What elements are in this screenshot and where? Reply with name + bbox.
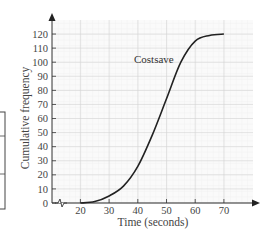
y-axis-title: Cumulative frequency [19, 67, 32, 170]
y-tick-label: 120 [32, 29, 48, 40]
cumulative-frequency-chart: 0102030405060708090100110120 20304050607… [0, 0, 269, 243]
x-tick-label: 70 [219, 205, 230, 216]
y-tick-label: 110 [33, 43, 48, 54]
y-tick-label: 60 [38, 113, 49, 124]
x-tick-label: 60 [190, 205, 201, 216]
x-tick-label: 40 [133, 205, 144, 216]
series-label-costsave: Costsave [134, 53, 174, 65]
y-tick-label: 50 [38, 127, 49, 138]
x-axis-arrow-icon [252, 200, 260, 207]
x-tick-label: 20 [75, 205, 86, 216]
y-tick-label: 0 [43, 198, 48, 209]
y-tick-label: 30 [38, 155, 49, 166]
x-tick-label: 30 [104, 205, 115, 216]
partial-table [0, 112, 5, 209]
y-tick-label: 80 [38, 85, 49, 96]
y-tick-label: 10 [38, 184, 49, 195]
y-tick-label: 70 [38, 99, 49, 110]
x-tick-label: 50 [161, 205, 172, 216]
y-tick-label: 20 [38, 169, 49, 180]
y-tick-label: 40 [38, 141, 49, 152]
y-tick-label: 100 [32, 57, 48, 68]
y-tick-label: 90 [38, 71, 49, 82]
grid [52, 20, 253, 203]
x-axis-title: Time (seconds) [118, 216, 189, 229]
y-axis-arrow-icon [49, 13, 56, 21]
